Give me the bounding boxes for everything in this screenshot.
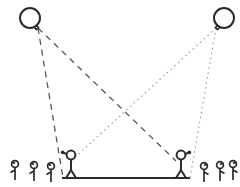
observer-left-legs [66, 170, 76, 178]
crowd-figure-right-3 [230, 161, 238, 180]
sightline-right-balloon-to-left-observer [72, 28, 216, 160]
balloon-left-knot-icon [35, 26, 39, 30]
crowd-figure-left-2 [30, 162, 38, 181]
balloon-left [20, 8, 40, 30]
observer-left-hand [61, 151, 65, 155]
sightline-left-balloon-to-platform-left [38, 28, 63, 178]
crowd-left-group [11, 161, 55, 182]
crowd-figure-right-2 [217, 162, 225, 181]
sightline-left-balloon-to-right-observer [38, 28, 176, 161]
diagram-canvas [0, 0, 240, 187]
observer-left [61, 151, 76, 178]
sightline-right-balloon-to-platform-right [190, 28, 216, 178]
observer-right-head [177, 151, 186, 160]
observer-right-hand [188, 151, 192, 155]
balloon-right-knot-icon [216, 26, 220, 30]
observer-right-legs [176, 170, 186, 178]
observer-left-head [67, 151, 76, 160]
crowd-right-group [201, 161, 238, 182]
crowd-figure-left-3 [47, 163, 55, 182]
observer-right [176, 151, 191, 178]
crowd-figure-right-1 [201, 163, 209, 182]
triangulation-diagram [0, 0, 240, 187]
sight-lines-group [38, 28, 216, 178]
crowd-figure-left-1 [11, 161, 19, 180]
balloon-right [214, 8, 234, 30]
